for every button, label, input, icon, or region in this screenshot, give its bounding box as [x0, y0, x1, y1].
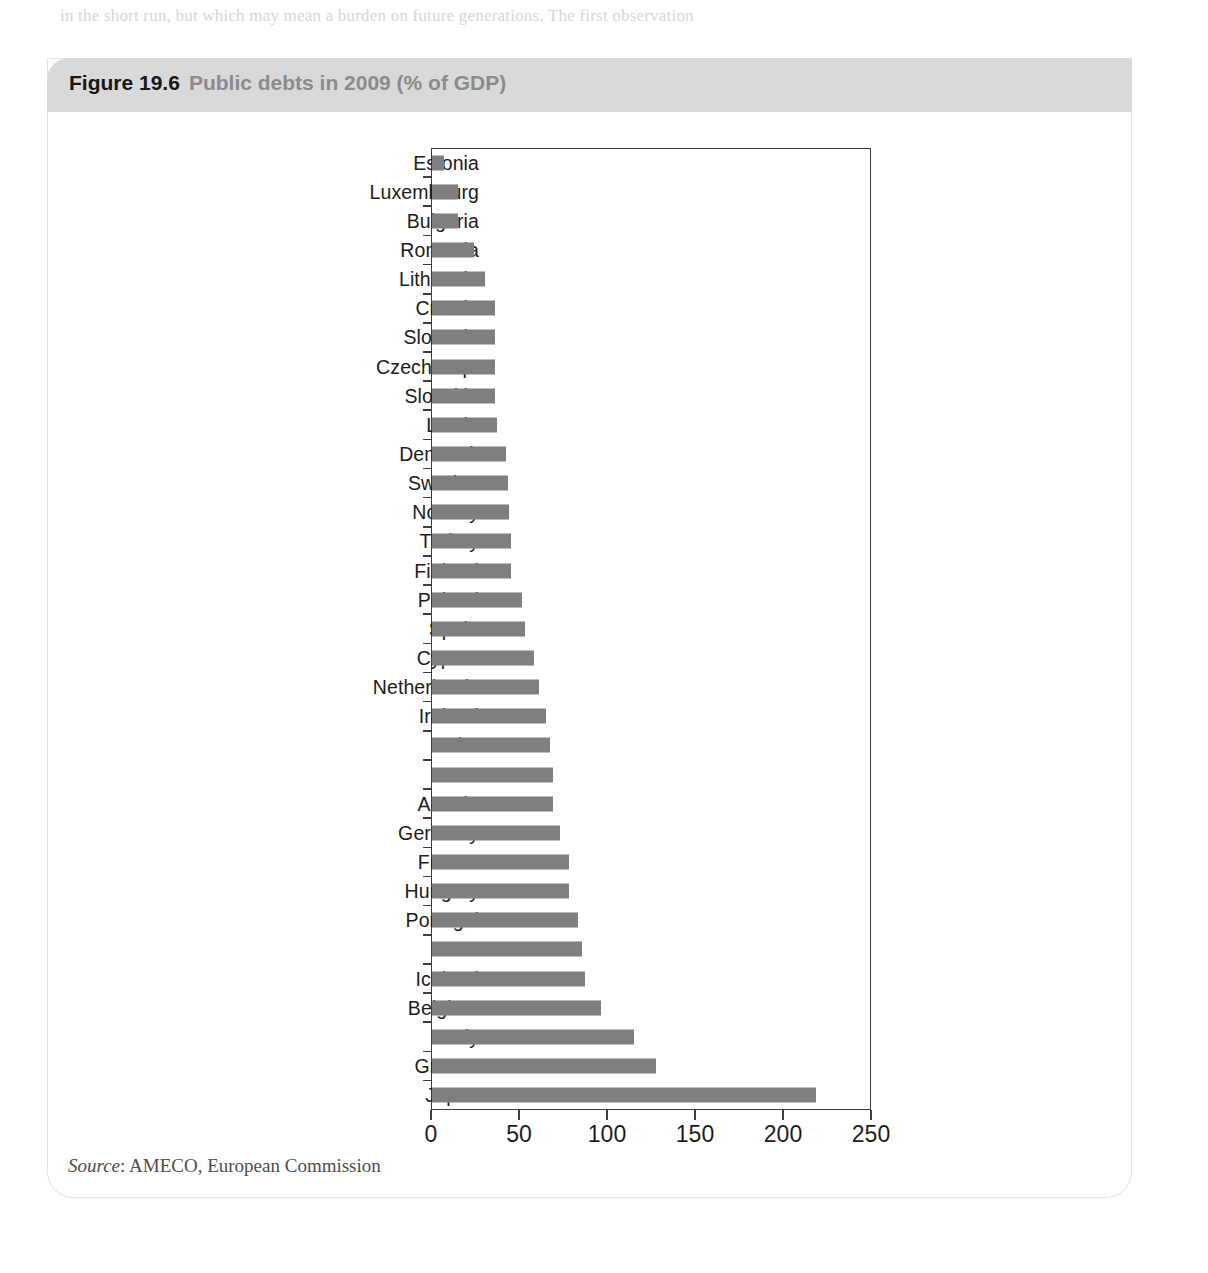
bar-row: Greece — [48, 1051, 871, 1080]
bar-row: Iceland — [48, 964, 871, 993]
bar — [432, 563, 511, 578]
bar — [432, 388, 495, 403]
bar — [432, 330, 495, 345]
bar-row: Turkey — [48, 527, 871, 556]
bar-row: Luxembourg — [48, 177, 871, 206]
x-axis-tick — [430, 1110, 432, 1120]
bar — [432, 272, 485, 287]
bar-category-label: Estonia — [413, 151, 479, 174]
bar — [432, 884, 569, 899]
x-axis-tick — [518, 1110, 520, 1120]
bar-row: Romania — [48, 235, 871, 264]
bar — [432, 942, 582, 957]
x-axis-tick-labels: 050100150200250 — [48, 1121, 1133, 1155]
source-label: Source — [68, 1155, 120, 1176]
bar — [432, 825, 560, 840]
bar — [432, 446, 506, 461]
x-axis-tick — [782, 1110, 784, 1120]
bar-row: Belgium — [48, 993, 871, 1022]
bar-row: Poland — [48, 585, 871, 614]
bar-row: Portugal — [48, 906, 871, 935]
bar — [432, 592, 522, 607]
bar-row: Slovakia — [48, 381, 871, 410]
bar — [432, 709, 546, 724]
bar — [432, 854, 569, 869]
bar-row: Austria — [48, 789, 871, 818]
bar-row: Croatia — [48, 294, 871, 323]
x-axis-tick-label: 150 — [676, 1121, 714, 1148]
bar-row: Hungary — [48, 877, 871, 906]
bar — [432, 650, 534, 665]
bar — [432, 1088, 816, 1103]
bar-row: Finland — [48, 556, 871, 585]
bar-row: Netherlands — [48, 673, 871, 702]
bar-row: Slovenia — [48, 323, 871, 352]
bar-rows: EstoniaLuxembourgBulgariaRomaniaLithuani… — [48, 148, 871, 1110]
x-axis-tick-label: 100 — [588, 1121, 626, 1148]
bar-row: Japan — [48, 1081, 871, 1110]
bar-row: Czech Rep. — [48, 352, 871, 381]
bar-row: Cyprus — [48, 643, 871, 672]
bar — [432, 301, 495, 316]
bar-row: Latvia — [48, 410, 871, 439]
bleed-line: in the short run, but which may mean a b… — [60, 6, 694, 26]
bar — [432, 971, 585, 986]
bar-row: Spain — [48, 614, 871, 643]
figure-header-band: Figure 19.6Public debts in 2009 (% of GD… — [47, 58, 1132, 112]
bar — [432, 184, 458, 199]
bar — [432, 1029, 634, 1044]
bar — [432, 213, 458, 228]
x-axis-tick-label: 0 — [425, 1121, 438, 1148]
bar — [432, 913, 578, 928]
bar-category-label: Luxembourg — [370, 180, 479, 203]
source-value: : AMECO, European Commission — [120, 1155, 381, 1176]
bar — [432, 417, 497, 432]
bar-row: UK — [48, 760, 871, 789]
bar-row: Germany — [48, 818, 871, 847]
bar — [432, 680, 539, 695]
bar — [432, 796, 553, 811]
bar — [432, 1000, 601, 1015]
x-axis-tick-label: 50 — [506, 1121, 532, 1148]
x-axis-tick — [694, 1110, 696, 1120]
bar-row: Denmark — [48, 439, 871, 468]
figure-card: EstoniaLuxembourgBulgariaRomaniaLithuani… — [47, 58, 1132, 1198]
bar — [432, 505, 509, 520]
bar — [432, 767, 553, 782]
bar — [432, 534, 511, 549]
x-axis-tick — [606, 1110, 608, 1120]
bar-row: Sweden — [48, 469, 871, 498]
figure-number: Figure 19.6 — [69, 71, 180, 94]
bar-row: Lithuania — [48, 265, 871, 294]
bar — [432, 242, 474, 257]
x-axis-tick-label: 200 — [764, 1121, 802, 1148]
figure-title-text: Public debts in 2009 (% of GDP) — [189, 71, 506, 94]
bar-row: Estonia — [48, 148, 871, 177]
bar-row: Norway — [48, 498, 871, 527]
bar-row: Bulgaria — [48, 206, 871, 235]
bar — [432, 738, 550, 753]
x-axis-tick — [870, 1110, 872, 1120]
bar — [432, 359, 495, 374]
bar-row: Italy — [48, 1022, 871, 1051]
bar — [432, 155, 444, 170]
bar-row: USA — [48, 935, 871, 964]
bar-row: Malta — [48, 731, 871, 760]
bar-row: France — [48, 847, 871, 876]
bar — [432, 621, 525, 636]
bar-chart: EstoniaLuxembourgBulgariaRomaniaLithuani… — [48, 59, 1133, 1199]
x-axis-tick-label: 250 — [852, 1121, 890, 1148]
figure-title: Figure 19.6Public debts in 2009 (% of GD… — [69, 71, 506, 95]
bar — [432, 476, 508, 491]
bar — [432, 1058, 656, 1073]
source-caption: Source: AMECO, European Commission — [68, 1155, 381, 1177]
bar-row: Ireland — [48, 702, 871, 731]
